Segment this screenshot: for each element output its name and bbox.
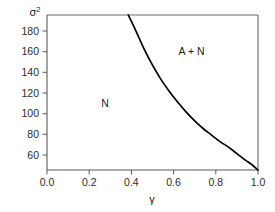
chart-figure: 60 80 100 120 140 160 180 0.0 0.2 0.4 0.… — [0, 0, 275, 212]
x-tick-label: 0.6 — [166, 176, 181, 188]
x-axis-ticks — [47, 170, 258, 175]
region-label-a-plus-n: A + N — [179, 45, 205, 57]
x-tick-label: 1.0 — [251, 176, 266, 188]
phase-boundary-curve — [128, 15, 258, 170]
y-tick-label: 160 — [21, 45, 39, 57]
x-tick-label: 0.2 — [82, 176, 97, 188]
y-axis-title: σ2 — [30, 5, 41, 18]
y-tick-label: 120 — [21, 87, 39, 99]
x-axis-title: γ — [149, 193, 155, 205]
region-label-n: N — [101, 97, 109, 109]
y-tick-label: 100 — [21, 107, 39, 119]
x-tick-label: 0.4 — [124, 176, 139, 188]
x-tick-label: 0.8 — [208, 176, 223, 188]
y-tick-label: 80 — [27, 128, 39, 140]
plot-frame — [47, 15, 258, 170]
phase-diagram-plot: 60 80 100 120 140 160 180 0.0 0.2 0.4 0.… — [0, 0, 275, 212]
y-axis-ticks — [43, 31, 48, 155]
y-axis-tick-labels: 60 80 100 120 140 160 180 — [21, 25, 39, 161]
y-tick-label: 60 — [27, 149, 39, 161]
x-tick-label: 0.0 — [40, 176, 55, 188]
x-axis-tick-labels: 0.0 0.2 0.4 0.6 0.8 1.0 — [40, 176, 266, 188]
y-tick-label: 140 — [21, 66, 39, 78]
y-tick-label: 180 — [21, 25, 39, 37]
y-axis-title-exponent: 2 — [36, 5, 40, 14]
